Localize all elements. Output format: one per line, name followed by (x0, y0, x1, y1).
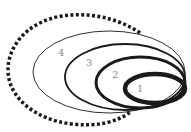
label-3: 3 (86, 57, 92, 68)
ellipse-1 (125, 74, 185, 103)
label-2: 2 (112, 69, 118, 80)
label-4: 4 (58, 47, 64, 58)
nested-ellipses-diagram: 4 3 2 1 (0, 0, 191, 132)
label-1: 1 (137, 83, 143, 94)
